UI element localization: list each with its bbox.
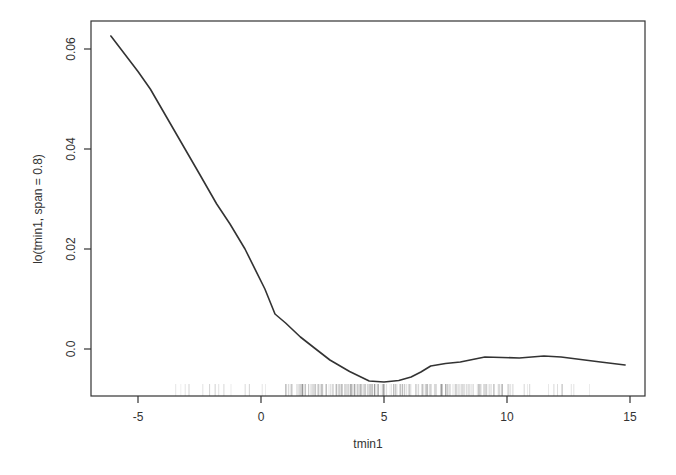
x-tick-label: -5 — [133, 410, 144, 424]
y-tick-label: 0.06 — [64, 37, 78, 61]
plot-frame — [91, 21, 645, 396]
x-tick-label: 15 — [623, 410, 637, 424]
x-axis: -5051015 — [133, 396, 637, 424]
y-tick-label: 0.02 — [64, 237, 78, 261]
x-axis-label: tmin1 — [353, 437, 383, 451]
loess-partial-plot: -5051015 0.00.020.040.06 tmin1 lo(tmin1,… — [0, 0, 676, 475]
y-tick-label: 0.0 — [64, 340, 78, 357]
smooth-curve — [111, 36, 625, 382]
x-tick-label: 10 — [500, 410, 514, 424]
x-tick-label: 0 — [258, 410, 265, 424]
y-tick-label: 0.04 — [64, 137, 78, 161]
rug-marks — [176, 384, 590, 396]
y-axis: 0.00.020.040.06 — [64, 37, 91, 357]
y-axis-label: lo(tmin1, span = 0.8) — [31, 154, 45, 264]
x-tick-label: 5 — [381, 410, 388, 424]
